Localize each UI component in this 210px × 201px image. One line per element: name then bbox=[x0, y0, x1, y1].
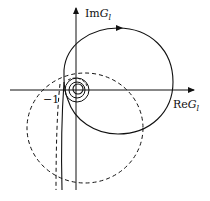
imag-axis-label: ImGl bbox=[85, 7, 112, 22]
minus-one-label: −1 bbox=[43, 93, 59, 106]
spiral-inner bbox=[73, 84, 83, 94]
solid-circle-locus bbox=[64, 28, 173, 134]
solid-asymptote bbox=[62, 82, 64, 190]
direction-arrow-icon bbox=[116, 25, 123, 31]
nyquist-diagram: ImGl ReGl −1 bbox=[0, 0, 210, 201]
real-axis-label: ReGl bbox=[173, 98, 200, 113]
